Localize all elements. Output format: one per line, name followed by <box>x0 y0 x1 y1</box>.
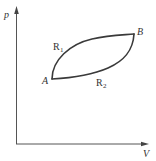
svg-text:R: R <box>96 77 103 88</box>
svg-text:2: 2 <box>103 82 107 90</box>
y-axis: p <box>3 6 19 144</box>
path-r2-curve <box>52 34 134 79</box>
svg-text:1: 1 <box>60 46 64 54</box>
svg-text:R: R <box>53 41 60 52</box>
point-a-label: A <box>41 75 49 86</box>
x-axis-label: V <box>143 148 151 159</box>
path-r1-label: R 1 <box>53 41 64 54</box>
point-b-label: B <box>137 26 143 37</box>
path-r2-label: R 2 <box>96 77 107 90</box>
x-axis-arrow-icon <box>141 142 149 146</box>
x-axis: V <box>16 142 151 159</box>
path-r1-curve <box>52 34 134 79</box>
pv-diagram: p V A B R 1 R 2 <box>0 0 156 161</box>
y-axis-label: p <box>3 9 9 20</box>
y-axis-arrow-icon <box>14 6 19 14</box>
